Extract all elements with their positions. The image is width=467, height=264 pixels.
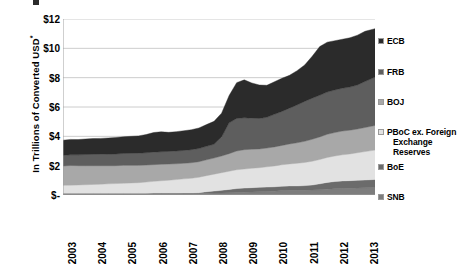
x-axis-tick-label: 2012	[339, 242, 350, 264]
legend-swatch-icon	[378, 129, 384, 135]
area-chart-svg	[63, 19, 375, 195]
x-axis-tick-label: 2006	[158, 242, 169, 264]
legend-item-boe[interactable]: BoE	[378, 162, 404, 172]
legend-swatch-icon	[378, 38, 384, 44]
x-axis-tick-label: 2005	[127, 242, 138, 264]
x-axis-tick-label: 2009	[248, 242, 259, 264]
legend-item-label: PBoC ex. ForeignExchange Reserves	[387, 127, 467, 157]
y-axis-tick-label: $6	[49, 102, 60, 113]
x-axis-tick-label: 2004	[97, 242, 108, 264]
legend-swatch-icon	[378, 69, 384, 75]
legend-item-label: SNB	[387, 192, 405, 202]
legend-swatch-icon	[378, 99, 384, 105]
plot-area	[63, 19, 375, 195]
x-axis-tick-label: 2008	[218, 242, 229, 264]
x-axis-tick-label: 2003	[67, 242, 78, 264]
y-axis-tick-label: $10	[43, 43, 60, 54]
y-axis-tick-labels: $-$2$4$6$8$10$12	[18, 0, 60, 258]
legend-item-label: FRB	[387, 67, 404, 77]
legend-item-snb[interactable]: SNB	[378, 192, 405, 202]
legend-item-ecb[interactable]: ECB	[378, 36, 405, 46]
y-axis-tick-label: $4	[49, 131, 60, 142]
x-axis-tick-label: 2011	[309, 242, 320, 264]
x-axis-tick-label: 2007	[188, 242, 199, 264]
y-axis-tick-label: $2	[49, 160, 60, 171]
legend-item-label: BoE	[387, 162, 404, 172]
legend-item-label-line2: Exchange Reserves	[387, 137, 467, 157]
x-axis-tick-label: 2013	[369, 242, 380, 264]
y-axis-tick-label: $8	[49, 72, 60, 83]
legend-swatch-icon	[378, 194, 384, 200]
x-axis-tick-labels: 2003200420052006200720082009201020112012…	[63, 198, 375, 256]
y-axis-tick-label: $12	[43, 14, 60, 25]
legend-item-frb[interactable]: FRB	[378, 67, 404, 77]
legend-item-pboc[interactable]: PBoC ex. ForeignExchange Reserves	[378, 127, 467, 157]
legend-item-boj[interactable]: BOJ	[378, 97, 404, 107]
x-axis-tick-label: 2010	[278, 242, 289, 264]
y-axis-tick-label: $-	[51, 190, 60, 201]
legend-item-label: ECB	[387, 36, 405, 46]
legend-item-label: BOJ	[387, 97, 404, 107]
legend-swatch-icon	[378, 164, 384, 170]
